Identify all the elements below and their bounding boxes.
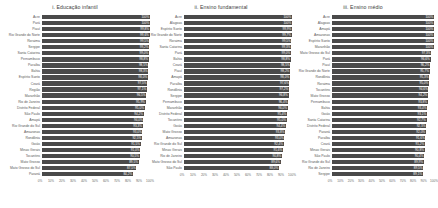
bar-value-label: 96,5% [42, 93, 147, 97]
bar-value-label: 93,4% [332, 106, 428, 110]
chart-panel-ensino-fundamental: ii. Ensino fundamental Acre100%Alagoas10… [150, 0, 292, 208]
axis-tick-label: 70% [256, 173, 262, 177]
bar-value-label: 84,2% [42, 172, 133, 176]
axis-tick-label: 0% [38, 179, 42, 183]
axis-tick-label: 30% [212, 173, 218, 177]
bar-value-label: 91,5% [42, 142, 141, 146]
plot-area: Acre100%Pará100%Piauí99,8%Rio Grande do … [0, 14, 150, 186]
chart-panel-ensino-medio: iii. Ensino médio Acre100%Alagoas100%Ama… [292, 0, 434, 208]
bar-value-label: 92,7% [332, 118, 427, 122]
bar-value-label: 99,0% [42, 51, 149, 55]
bar-value-label: 100% [332, 39, 434, 43]
axis-tick-label: 30% [358, 179, 364, 183]
bar-value-label: 100% [332, 33, 434, 37]
bar-value-label: 96,4% [184, 100, 289, 104]
plot-area: Acre100%Alagoas100%Espírito Santo99,9%Ri… [150, 14, 292, 180]
bar-value-label: 97,2% [184, 87, 289, 91]
axis-tick-label: 60% [103, 179, 109, 183]
bar-value-label: 96,8% [184, 93, 289, 97]
bar-value-label: 93,8% [184, 130, 286, 134]
bar-value-label: 94,2% [332, 93, 428, 97]
bar-value-label: 99,6% [42, 33, 150, 37]
bar-value-label: 91,6% [184, 148, 283, 152]
bar-value-label: 99,2% [42, 45, 150, 49]
bar-value-label: 96,0% [184, 106, 288, 110]
bar-value-label: 97,1% [42, 87, 147, 91]
bar-value-label: 93,8% [332, 100, 428, 104]
bar-value-label: 90,5% [42, 154, 140, 158]
bar-value-label: 92,4% [184, 142, 284, 146]
bar-value-label: 94,4% [184, 124, 286, 128]
x-axis: 0%10%20%30%40%50%60%70%80%90%100% [292, 179, 434, 186]
bar-value-label: 99,0% [184, 51, 291, 55]
category-label: Sergipe [292, 171, 332, 177]
bar-value-label: 95,4% [184, 112, 287, 116]
bar-value-label: 93,3% [42, 124, 143, 128]
bar-value-label: 92,5% [42, 136, 142, 140]
axis-tick-label: 90% [136, 179, 142, 183]
axis-tick-label: 10% [48, 179, 54, 183]
axis-tick-label: 20% [348, 179, 354, 183]
bar-value-label: 100% [184, 21, 292, 25]
bar-row: Paraná84,2% [0, 171, 150, 177]
bar-value-label: 95,7% [332, 69, 430, 73]
axis-tick-label: 40% [368, 179, 374, 183]
panel-title: i. Educação infantil [0, 3, 150, 11]
bar-value-label: 95,3% [332, 75, 430, 79]
axis-tick-container: 0%10%20%30%40%50%60%70%80%90%100% [330, 179, 434, 186]
axis-tick-label: 20% [201, 173, 207, 177]
bar-value-label: 89,1% [332, 172, 423, 176]
bar-value-label: 98,0% [42, 75, 148, 79]
category-label: Paraná [0, 171, 42, 177]
bar-value-label: 95,9% [42, 100, 146, 104]
bar-value-label: 98,5% [42, 63, 149, 67]
axis-tick-label: 60% [245, 173, 251, 177]
axis-tick-label: 40% [223, 173, 229, 177]
category-label: São Paulo [150, 165, 184, 171]
bar-value-label: 89,6% [184, 160, 281, 164]
bar-value-label: 100% [184, 15, 292, 19]
chart-panel-educacao-infantil: i. Educação infantil Acre100%Pará100%Pia… [0, 0, 150, 208]
bar-value-label: 90,8% [184, 154, 282, 158]
bar-value-label: 93,1% [332, 112, 427, 116]
axis-tick-label: 50% [379, 179, 385, 183]
bar-value-label: 90,4% [332, 154, 425, 158]
axis-tick-label: 100% [430, 179, 438, 183]
axis-tick-label: 0% [328, 179, 332, 183]
bar-value-label: 100% [332, 27, 434, 31]
bar-value-label: 89,5% [332, 166, 424, 170]
bar-value-label: 98,8% [42, 57, 149, 61]
axis-tick-label: 10% [190, 173, 196, 177]
bar-value-label: 93,0% [184, 136, 285, 140]
bar-value-label: 98,5% [184, 63, 291, 67]
bar-value-label: 91,0% [42, 148, 141, 152]
axis-tick-label: 50% [234, 173, 240, 177]
bar-value-label: 98,3% [42, 69, 149, 73]
panel-title: iii. Ensino médio [292, 3, 434, 11]
axis-tick-label: 90% [420, 179, 426, 183]
axis-tick-label: 40% [81, 179, 87, 183]
bar-value-label: 89,5% [42, 160, 139, 164]
bar-value-label: 94,2% [42, 112, 144, 116]
bar-value-label: 100% [332, 15, 434, 19]
bar-value-label: 91,6% [332, 136, 426, 140]
axis-tick-label: 10% [337, 179, 343, 183]
bar-value-label: 95,0% [332, 81, 429, 85]
axis-tick-label: 60% [389, 179, 395, 183]
bar-value-label: 100% [42, 15, 150, 19]
bar-value-label: 98,8% [184, 57, 291, 61]
axis-tick-label: 20% [59, 179, 65, 183]
panel-title: ii. Ensino fundamental [150, 3, 292, 11]
bar-value-label: 98,0% [184, 75, 290, 79]
axis-tick-label: 80% [267, 173, 273, 177]
bar-value-label: 98,2% [184, 69, 290, 73]
axis-tick-label: 80% [410, 179, 416, 183]
bar-value-label: 96,2% [332, 63, 431, 67]
x-axis: 0%10%20%30%40%50%60%70%80%90%100% [150, 173, 292, 180]
bar-value-label: 91,2% [332, 142, 425, 146]
bar-track: 84,2% [42, 171, 150, 177]
bar-value-label: 99,5% [184, 39, 292, 43]
bar-value-label: 100% [332, 45, 434, 49]
axis-tick-label: 90% [278, 173, 284, 177]
axis-tick-container: 0%10%20%30%40%50%60%70%80%90%100% [40, 179, 150, 186]
